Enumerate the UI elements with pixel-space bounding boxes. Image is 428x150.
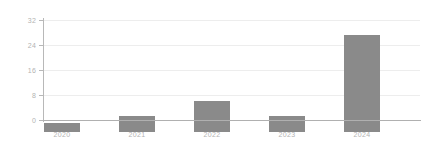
x-tick-label-2020: 2020 xyxy=(44,131,80,138)
bar-2021 xyxy=(119,116,155,132)
y-tick-8 xyxy=(39,95,43,96)
x-tick-label-2023: 2023 xyxy=(269,131,305,138)
y-tick-label-16: 16 xyxy=(6,67,36,74)
bar-chart: 32 24 16 8 0 2020 2021 2022 2023 2024 xyxy=(0,0,428,150)
x-tick-label-2022: 2022 xyxy=(194,131,230,138)
y-tick-24 xyxy=(39,45,43,46)
y-tick-32 xyxy=(39,20,43,21)
x-axis-line xyxy=(43,120,421,121)
x-tick-label-2021: 2021 xyxy=(119,131,155,138)
bar-2023 xyxy=(269,116,305,132)
y-tick-label-24: 24 xyxy=(6,42,36,49)
y-tick-0 xyxy=(39,120,43,121)
x-tick-label-2024: 2024 xyxy=(344,131,380,138)
y-axis-line xyxy=(43,18,44,122)
plot-area xyxy=(44,14,420,126)
y-tick-label-8: 8 xyxy=(6,92,36,99)
y-tick-label-0: 0 xyxy=(6,117,36,124)
gridline-32 xyxy=(44,20,420,21)
bar-2024 xyxy=(344,35,380,132)
bar-2022 xyxy=(194,101,230,132)
y-tick-16 xyxy=(39,70,43,71)
y-tick-label-32: 32 xyxy=(6,17,36,24)
